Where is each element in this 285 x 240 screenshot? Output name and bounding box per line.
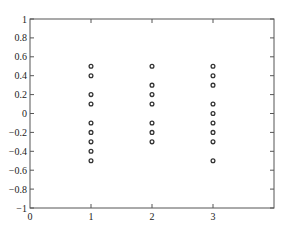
- scatter-chart: 10.80.60.40.20−0.2−0.4−0.6−0.8−1 0123: [0, 0, 285, 240]
- data-point: [211, 121, 215, 125]
- data-point: [89, 121, 93, 125]
- y-tick-label: 0.6: [15, 51, 28, 62]
- axes-frame: [30, 19, 274, 208]
- y-axis: 10.80.60.40.20−0.2−0.4−0.6−0.8−1: [9, 14, 274, 214]
- y-tick-label: −0.6: [9, 165, 27, 176]
- data-point: [150, 102, 154, 106]
- y-tick-label: 0: [22, 108, 27, 119]
- data-point: [89, 149, 93, 153]
- data-point: [211, 159, 215, 163]
- data-point: [211, 140, 215, 144]
- data-point: [150, 93, 154, 97]
- y-tick-label: −0.8: [9, 184, 27, 195]
- x-tick-label: 1: [89, 211, 94, 222]
- data-point: [89, 64, 93, 68]
- data-point: [150, 131, 154, 135]
- data-point: [211, 131, 215, 135]
- data-point: [211, 102, 215, 106]
- y-tick-label: −0.2: [9, 127, 27, 138]
- x-tick-label: 3: [211, 211, 216, 222]
- y-tick-label: 0.8: [15, 32, 28, 43]
- y-tick-label: 0.4: [15, 70, 28, 81]
- y-tick-label: 0.2: [15, 89, 28, 100]
- data-point: [89, 102, 93, 106]
- y-tick-label: −0.4: [9, 146, 27, 157]
- x-axis: 0123: [28, 19, 216, 222]
- data-point: [211, 112, 215, 116]
- data-point: [89, 140, 93, 144]
- y-tick-label: −1: [16, 203, 27, 214]
- data-point: [89, 159, 93, 163]
- data-point: [211, 74, 215, 78]
- data-point: [211, 64, 215, 68]
- data-point: [211, 83, 215, 87]
- x-tick-label: 0: [28, 211, 33, 222]
- data-point: [150, 83, 154, 87]
- data-point: [150, 140, 154, 144]
- x-tick-label: 2: [150, 211, 155, 222]
- data-points: [89, 64, 215, 162]
- data-point: [89, 93, 93, 97]
- plot-border: [30, 19, 274, 208]
- data-point: [150, 64, 154, 68]
- data-point: [89, 131, 93, 135]
- data-point: [89, 74, 93, 78]
- data-point: [150, 121, 154, 125]
- y-tick-label: 1: [22, 14, 27, 25]
